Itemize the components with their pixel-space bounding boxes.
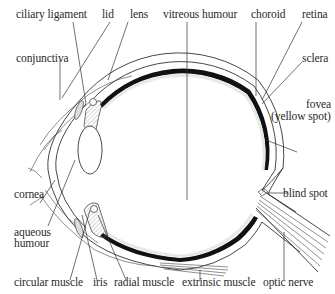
choroid xyxy=(100,69,270,262)
label-conjunctiva: conjunctiva xyxy=(16,52,69,64)
label-yellow-spot: (yellow spot) xyxy=(271,110,331,122)
label-ciliary-ligament: ciliary ligament xyxy=(16,8,87,20)
label-lid: lid xyxy=(102,8,114,20)
label-blind-spot: blind spot xyxy=(283,187,328,199)
label-extrinsic-muscle: extrinsic muscle xyxy=(182,276,255,288)
label-radial-muscle: radial muscle xyxy=(114,276,174,288)
label-vitreous-humour: vitreous humour xyxy=(163,8,237,20)
label-optic-nerve: optic nerve xyxy=(263,276,313,288)
label-choroid: choroid xyxy=(251,8,285,20)
label-fovea: fovea xyxy=(306,98,331,110)
label-iris: iris xyxy=(93,276,107,288)
label-lens: lens xyxy=(130,8,148,20)
optic-nerve xyxy=(256,168,330,272)
eye-diagram xyxy=(0,0,335,294)
lens xyxy=(78,126,102,174)
extrinsic-muscle xyxy=(160,263,228,276)
label-retina: retina xyxy=(302,8,328,20)
label-cornea: cornea xyxy=(14,188,44,200)
retina xyxy=(103,75,264,256)
label-circular-muscle: circular muscle xyxy=(14,276,83,288)
label-humour: humour xyxy=(14,237,49,249)
label-sclera: sclera xyxy=(302,52,328,64)
